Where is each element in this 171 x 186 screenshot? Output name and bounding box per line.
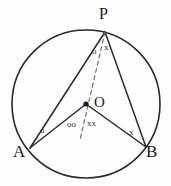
center-point-dot bbox=[83, 101, 88, 106]
vertex-label-a: A bbox=[13, 143, 25, 160]
angle-mark-at-b: x bbox=[129, 128, 134, 137]
vertex-label-o: O bbox=[94, 95, 105, 110]
angle-mark-at-o-left: oo bbox=[67, 120, 76, 129]
vertex-label-p: P bbox=[99, 6, 108, 22]
angle-mark-at-p-right: x bbox=[104, 43, 109, 52]
geometry-figure: P O A B o x o oo xx x bbox=[0, 0, 171, 186]
vertex-label-b: B bbox=[146, 143, 157, 160]
segment-oa bbox=[30, 104, 86, 148]
segment-pb bbox=[105, 32, 146, 147]
angle-mark-at-p-left: o bbox=[92, 47, 97, 56]
angle-mark-at-o-right: xx bbox=[87, 119, 96, 128]
angle-mark-at-a: o bbox=[40, 126, 45, 135]
